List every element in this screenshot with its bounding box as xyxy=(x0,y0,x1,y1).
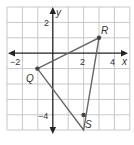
y-axis-label: y xyxy=(55,7,62,18)
tick-label-x-neg2: −2 xyxy=(10,57,20,67)
x-axis-label: x xyxy=(121,56,128,67)
tick-label-y-neg4: −4 xyxy=(38,111,48,121)
point-s xyxy=(81,113,85,117)
point-label-r: R xyxy=(101,25,108,36)
point-q xyxy=(35,66,39,70)
coordinate-plane: y x −2 2 4 2 −4 Q R S xyxy=(0,0,134,145)
point-label-s: S xyxy=(85,119,92,130)
tick-label-x-4: 4 xyxy=(110,57,115,67)
point-r xyxy=(97,36,101,40)
tick-label-y-2: 2 xyxy=(44,18,49,28)
point-label-q: Q xyxy=(26,73,34,84)
grid xyxy=(7,7,130,130)
tick-label-x-2: 2 xyxy=(80,57,85,67)
x-axis-left-arrow-icon xyxy=(8,50,15,56)
